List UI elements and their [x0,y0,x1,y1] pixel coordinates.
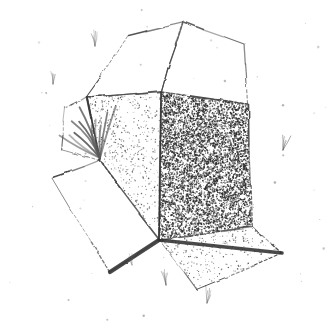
speckle [143,315,145,317]
speckle [140,64,142,66]
speckle [237,158,238,159]
speckle [41,92,42,93]
speckle [314,190,315,191]
speckle [163,257,164,258]
box-illustration [0,0,334,329]
speckle [317,45,319,47]
speckle [301,281,302,282]
speckle [282,154,284,156]
speckle [106,319,108,321]
speckle [322,247,324,249]
speckle [85,152,87,154]
speckle [45,92,47,94]
speckle [164,79,166,81]
speckle [256,76,258,78]
speckle [274,181,276,183]
speckle [92,35,93,36]
speckle [146,26,147,27]
speckle [147,141,148,142]
speckle [224,80,227,83]
speckle [199,151,202,154]
speckle [325,107,326,108]
speckle [93,124,94,125]
speckle [127,159,128,160]
speckle [300,273,301,274]
speckle [193,78,194,79]
speckle [282,104,284,106]
speckle [49,125,50,126]
speckle [210,39,212,41]
speckle [141,9,143,11]
speckle [216,47,218,49]
speckle [163,117,164,118]
speckle [9,282,10,283]
speckle [83,199,84,200]
speckle [313,112,314,113]
speckle [146,156,147,157]
speckle [32,206,34,208]
speckle [38,41,40,43]
speckle [67,299,69,301]
speckle [85,180,87,182]
speckle [319,219,320,220]
speckle [178,112,180,114]
illustration-canvas: Open Cardboard Box an open-flapped cardb… [0,0,334,329]
speckle [79,207,81,209]
speckle [305,23,306,24]
speckle [91,273,92,274]
